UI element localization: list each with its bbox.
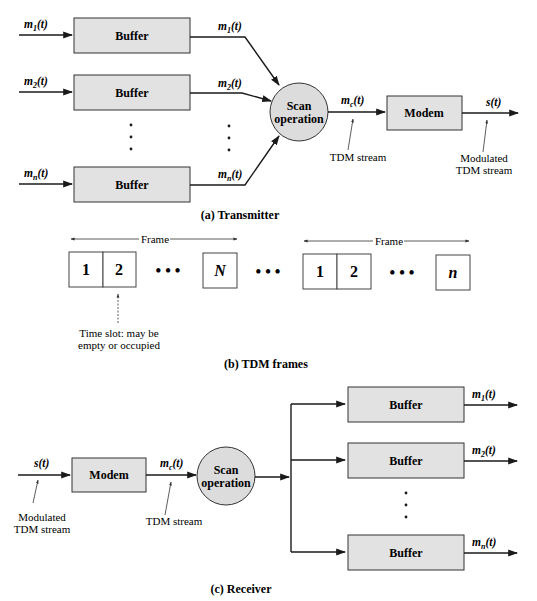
rx-scan-label-1: Scan — [214, 463, 239, 477]
tx-buffer-n-label: Buffer — [115, 178, 149, 192]
rx-modulated-note-1: Modulated — [18, 511, 66, 523]
receiver-diagram: s(t) Modulated TDM stream Modem mc(t) TD… — [14, 387, 517, 596]
frames-caption: (b) TDM frames — [224, 357, 308, 371]
tx-link-2 — [190, 93, 271, 101]
tx-modulated-pointer — [483, 120, 487, 152]
tx-tdm-stream-note: TDM stream — [330, 151, 387, 163]
rx-output-label-1: m1(t) — [472, 388, 496, 403]
frame1-ellipsis: • • • — [156, 262, 181, 279]
transmitter-diagram: m1(t) m2(t) mn(t) Buffer Buffer Buffer m… — [19, 18, 518, 222]
tx-out-label-1: m1(t) — [218, 20, 242, 35]
frame2-slot-n-label: n — [449, 264, 458, 281]
rx-input-label: s(t) — [33, 457, 50, 470]
tx-scan-label-1: Scan — [287, 99, 312, 113]
tx-buffer-2-label: Buffer — [115, 86, 149, 100]
rx-modem-label: Modem — [89, 468, 128, 482]
tx-out-label-2: m2(t) — [218, 77, 242, 92]
rx-ellipsis-vertical — [405, 492, 408, 519]
frame1-label: Frame — [141, 233, 169, 245]
tx-output-label: s(t) — [485, 96, 502, 109]
time-slot-note-1: Time slot: may be — [79, 327, 158, 339]
frame1-slot-1-label: 1 — [82, 261, 90, 278]
tx-modulated-note-1: Modulated — [460, 152, 508, 164]
tdm-frames-diagram: Frame Frame 1 2 • • • N • • • 1 2 • • • … — [69, 233, 470, 371]
tx-tdm-pointer — [348, 119, 353, 150]
rx-output-label-2: m2(t) — [472, 444, 496, 459]
rx-output-label-n: mn(t) — [472, 536, 496, 551]
rx-buffer-n-label: Buffer — [389, 546, 423, 560]
rx-tdm-stream-note: TDM stream — [146, 515, 203, 527]
rx-mc-label: mc(t) — [160, 457, 184, 472]
transmitter-caption: (a) Transmitter — [201, 208, 280, 222]
rx-buffer-1-label: Buffer — [389, 398, 423, 412]
rx-scan-label-2: operation — [201, 476, 251, 490]
rx-buffer-2-label: Buffer — [389, 454, 423, 468]
receiver-caption: (c) Receiver — [211, 582, 273, 596]
tx-out-label-n: mn(t) — [218, 168, 242, 183]
rx-modulated-pointer — [33, 480, 38, 503]
frame2-slot-1-label: 1 — [316, 263, 324, 280]
tx-buffer-1-label: Buffer — [115, 29, 149, 43]
tx-ellipsis-vertical — [130, 124, 231, 152]
tx-scan-label-2: operation — [274, 112, 324, 126]
frame1-slot-2-label: 2 — [115, 261, 123, 278]
frame2-slot-2-label: 2 — [350, 263, 358, 280]
input-label-1: m1(t) — [24, 18, 48, 33]
between-frames-ellipsis: • • • — [256, 263, 281, 280]
tx-modulated-note-2: TDM stream — [456, 164, 513, 176]
frame2-ellipsis: • • • — [390, 264, 415, 281]
input-label-2: m2(t) — [24, 75, 48, 90]
tx-modem-label: Modem — [404, 106, 443, 120]
frame2-label: Frame — [375, 235, 403, 247]
time-slot-note-2: empty or occupied — [78, 339, 160, 351]
frame1-slot-N-label: N — [213, 262, 227, 279]
tx-mc-label: mc(t) — [341, 94, 365, 109]
input-label-n: mn(t) — [24, 167, 48, 182]
rx-modulated-note-2: TDM stream — [14, 523, 71, 535]
rx-tdm-pointer — [165, 482, 171, 515]
